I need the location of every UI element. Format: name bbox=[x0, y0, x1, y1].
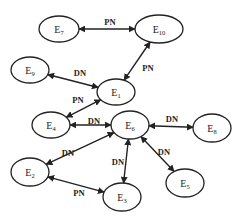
edges-layer: PNPNDNPNDNDNDNDNDNPN bbox=[46, 17, 193, 198]
edge-e2-e3: PN bbox=[48, 177, 104, 198]
bidirectional-arrow-icon bbox=[124, 42, 150, 80]
edge-e7-e10: PN bbox=[79, 17, 135, 29]
network-diagram: PNPNDNPNDNDNDNDNDNPN E7E10E9E1E4E6E8E2E3… bbox=[0, 0, 238, 222]
edge-e4-e6: DN bbox=[70, 116, 111, 126]
edge-e6-e3: DN bbox=[112, 139, 129, 183]
edge-label: DN bbox=[158, 147, 171, 157]
nodes-layer: E7E10E9E1E4E6E8E2E3E5 bbox=[11, 15, 231, 211]
edge-label: DN bbox=[62, 148, 75, 158]
node-e9: E9 bbox=[11, 57, 49, 83]
bidirectional-arrow-icon bbox=[124, 139, 129, 183]
node-e5: E5 bbox=[166, 169, 204, 197]
edge-label: PN bbox=[72, 95, 84, 105]
edge-label: DN bbox=[88, 116, 101, 126]
edge-label: DN bbox=[112, 157, 125, 167]
node-e1: E1 bbox=[97, 79, 135, 105]
edge-label: PN bbox=[142, 63, 154, 73]
edge-e6-e5: DN bbox=[141, 136, 174, 171]
node-e3: E3 bbox=[103, 183, 141, 211]
node-e10: E10 bbox=[135, 15, 183, 43]
bidirectional-arrow-icon bbox=[149, 126, 193, 128]
edge-e10-e1: PN bbox=[124, 42, 154, 80]
node-e7: E7 bbox=[39, 16, 79, 42]
edge-label: DN bbox=[74, 68, 87, 78]
edge-e6-e8: DN bbox=[149, 114, 193, 127]
edge-label: DN bbox=[166, 114, 179, 124]
edge-label: PN bbox=[104, 17, 116, 27]
node-e8: E8 bbox=[193, 114, 231, 142]
edge-label: PN bbox=[73, 188, 85, 198]
node-e6: E6 bbox=[111, 111, 149, 139]
node-e2: E2 bbox=[11, 158, 49, 186]
edge-e4-e1: PN bbox=[66, 95, 100, 117]
edge-e9-e1: DN bbox=[48, 68, 98, 87]
node-e4: E4 bbox=[32, 112, 70, 138]
